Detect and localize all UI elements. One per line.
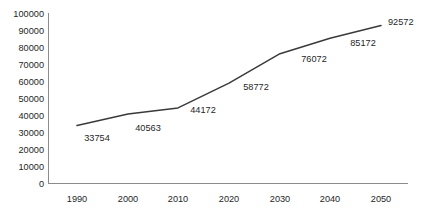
data-label-2020: 58772 (243, 82, 269, 92)
x-tick-label: 2020 (219, 194, 239, 204)
line-chart: 100000 90000 80000 70000 60000 50000 400… (0, 0, 427, 211)
data-label-1990: 33754 (84, 133, 110, 143)
chart-canvas: 100000 90000 80000 70000 60000 50000 400… (0, 0, 427, 211)
x-tick-label: 2010 (168, 194, 188, 204)
x-tick-label: 1990 (67, 194, 87, 204)
y-tick-label: 100000 (13, 9, 44, 19)
x-tick-label: 2030 (270, 194, 290, 204)
y-tick-label: 50000 (18, 94, 44, 104)
data-label-2000: 40563 (135, 123, 161, 133)
data-label-2010: 44172 (190, 105, 216, 115)
y-tick-label: 30000 (18, 128, 44, 138)
data-label-2030: 76072 (301, 54, 327, 64)
y-tick-label: 0 (39, 179, 44, 189)
y-tick-label: 20000 (18, 145, 44, 155)
x-tick-label: 2050 (371, 194, 391, 204)
y-tick-label: 80000 (18, 43, 44, 53)
y-tick-label: 10000 (18, 162, 44, 172)
data-label-2040: 85172 (350, 38, 376, 48)
y-tick-label: 60000 (18, 77, 44, 87)
data-label-2050: 92572 (388, 17, 414, 27)
x-tick-label: 2000 (118, 194, 138, 204)
y-tick-label: 40000 (18, 111, 44, 121)
y-tick-label: 70000 (18, 60, 44, 70)
x-tick-label: 2040 (320, 194, 340, 204)
y-tick-label: 90000 (18, 26, 44, 36)
